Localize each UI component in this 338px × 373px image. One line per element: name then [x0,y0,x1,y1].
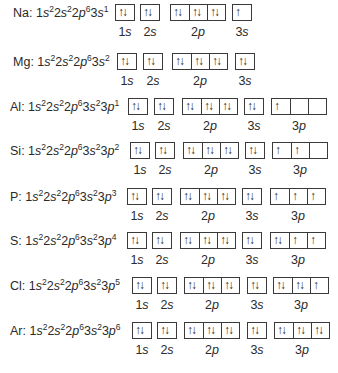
orbital-box: ↑↓ [171,5,189,20]
subshell-letter: s [127,74,133,88]
orbital-box: ↑↓ [153,233,171,248]
subshell-letter: p [105,234,112,248]
orbital-box: ↑↓ [203,323,221,338]
subshell-label: 2p [196,163,226,177]
subshell-letter: s [255,163,261,177]
subshell-label: 2p [195,119,225,133]
subshell-label: 2p [193,253,223,267]
subshell-label: 2p [183,25,213,39]
orbital-box: ↑↓ [173,54,191,69]
shell-number: 3 [291,253,298,267]
subshell-letter: p [208,253,215,267]
orbital-box: ↑↓ [191,54,209,69]
subshell-label: 2s [152,343,182,357]
shell-number: 3 [291,209,298,223]
orbital-box: ↑↓ [207,5,225,20]
subshell-letter: p [208,209,215,223]
orbital-box: ↑↓ [199,233,217,248]
orbital-box: ↑↓ [133,323,151,338]
orbital-box [309,143,327,158]
subshell-letter: p [212,343,219,357]
orbital-box: ↑↓ [236,54,254,69]
element-row-p: P: 1s22s22p63s23p3↑↓1s↑↓2s↑↓↑↓↑↓2p↑↓3s↑↑… [0,188,338,232]
electron-count: 3 [112,188,117,198]
subshell-letter: s [142,298,148,312]
orbital-box: ↑↓ [128,233,146,248]
orbital-box: ↑↓ [131,143,149,158]
orbital-box: ↑↓ [185,323,203,338]
orbital-box: ↑↓ [292,278,310,293]
subshell-label: 2s [138,74,168,88]
orbital-box: ↑↓ [141,5,159,20]
orbital-box: ↑↓ [181,189,199,204]
element-symbol: P [10,190,18,204]
shell-number: 3 [98,234,105,248]
subshell-letter: s [245,74,251,88]
subshell-label: 2s [147,253,177,267]
shell-number: 3 [80,190,87,204]
orbital-box: ↑↓ [217,189,235,204]
subshell-letter: p [298,209,305,223]
shell-number: 2 [46,100,53,114]
subshell-letter: s [167,298,173,312]
shell-number: 3 [102,324,109,338]
orbital-group-2p: ↑↓↑↓↑↓ [184,277,240,294]
subshell-letter: s [140,163,146,177]
orbital-group-3p: ↑↑ [272,142,328,159]
shell-number: 2 [64,100,71,114]
shell-number: 2 [204,163,211,177]
orbital-group-3s: ↑↓ [235,53,255,70]
subshell-label: 3s [237,253,267,267]
orbital-box: ↑↓ [311,323,329,338]
orbital-box: ↑ [273,143,291,158]
subshell-label: 3s [227,25,257,39]
orbital-box: ↑ [307,189,325,204]
shell-number: 2 [201,253,208,267]
electron-configuration: Mg: 1s22s22p63s2 [13,55,110,69]
subshell-letter: s [137,253,143,267]
subshell-letter: s [257,298,263,312]
orbital-group-3p: ↑↓↑↓↑↓ [274,322,330,339]
orbital-box: ↑↓ [155,99,173,114]
element-symbol: Ar [10,324,23,338]
subshell-letter: s [252,209,258,223]
subshell-label: 3p [286,298,316,312]
electron-count: 2 [114,142,119,152]
orbital-box: ↑↓ [116,5,134,20]
subshell-letter: p [71,100,78,114]
orbital-group-2p: ↑↓↑↓↑↓ [183,142,239,159]
orbital-box: ↑↓ [243,189,261,204]
orbital-box [308,99,326,114]
subshell-label: 2p [185,74,215,88]
subshell-label: 3s [237,209,267,223]
element-symbol: S [10,234,18,248]
subshell-letter: p [200,74,207,88]
orbital-box: ↑ [233,5,251,20]
subshell-letter: s [254,119,260,133]
element-row-na: Na: 1s22s22p63s1↑↓1s↑↓2s↑↓↑↓↑↓2p↑3s [0,4,338,48]
orbital-box: ↑ [272,99,290,114]
orbital-box: ↑ [271,189,289,204]
orbital-group-1s: ↑↓ [127,188,147,205]
shell-number: 2 [65,279,72,293]
subshell-label: 2s [150,163,180,177]
subshell-label: 2s [149,119,179,133]
subshell-letter: p [299,119,306,133]
orbital-group-2p: ↑↓↑↓↑↓ [180,232,236,249]
subshell-letter: p [301,298,308,312]
orbital-group-2s: ↑↓ [152,232,172,249]
element-row-s: S: 1s22s22p63s23p4↑↓1s↑↓2s↑↓↑↓↑↓2p↑↓3s↑↓… [0,232,338,276]
orbital-box: ↑ [289,233,307,248]
element-row-ar: Ar: 1s22s22p63s23p6↑↓1s↑↓2s↑↓↑↓↑↓2p↑↓3s↑… [0,322,338,366]
orbital-box: ↑↓ [274,278,292,293]
orbital-group-3s: ↑↓ [242,232,262,249]
element-symbol: Al [10,100,21,114]
shell-number: 3 [98,190,105,204]
orbital-box: ↑↓ [201,99,219,114]
electron-configuration: P: 1s22s22p63s23p3 [10,190,116,204]
shell-number: 2 [203,119,210,133]
subshell-letter: s [125,25,131,39]
subshell-letter: s [162,209,168,223]
subshell-letter: p [109,324,116,338]
orbital-group-2s: ↑↓ [152,188,172,205]
